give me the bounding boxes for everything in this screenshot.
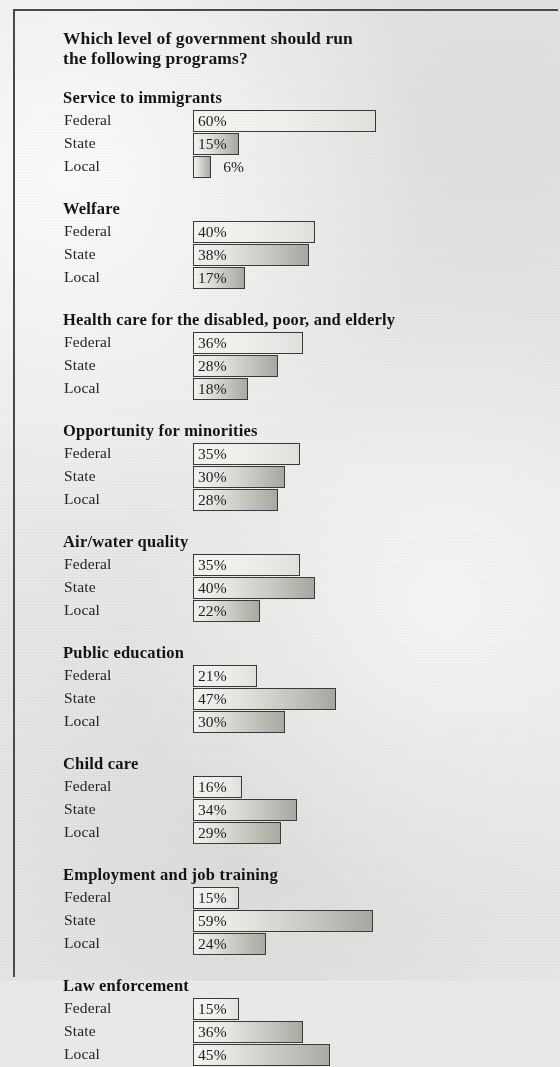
bar-value-label: 18% xyxy=(198,379,227,399)
row-label: Federal xyxy=(64,999,112,1017)
row-label: Federal xyxy=(64,111,112,129)
bar-value-label: 38% xyxy=(198,245,227,265)
row-label: State xyxy=(64,578,96,596)
bar-local: 6% xyxy=(193,156,211,178)
section-heading: Law enforcement xyxy=(63,976,189,996)
row-label: Local xyxy=(64,934,100,952)
bar-value-label: 24% xyxy=(198,934,227,954)
bar-value-label: 59% xyxy=(198,911,227,931)
bar-value-label: 40% xyxy=(198,578,227,598)
bar-federal: 15% xyxy=(193,887,239,909)
row-label: Federal xyxy=(64,333,112,351)
row-label: State xyxy=(64,134,96,152)
bar-value-label: 35% xyxy=(198,444,227,464)
bar-local: 45% xyxy=(193,1044,330,1066)
row-label: Federal xyxy=(64,222,112,240)
section-heading: Health care for the disabled, poor, and … xyxy=(63,310,395,330)
bar-local: 28% xyxy=(193,489,278,511)
bar-state: 15% xyxy=(193,133,239,155)
bar-value-label: 15% xyxy=(198,888,227,908)
row-label: Local xyxy=(64,712,100,730)
bar-federal: 35% xyxy=(193,554,300,576)
row-label: Local xyxy=(64,601,100,619)
row-label: State xyxy=(64,1022,96,1040)
section-heading: Air/water quality xyxy=(63,532,188,552)
bar-value-label: 36% xyxy=(198,1022,227,1042)
section-heading: Opportunity for minorities xyxy=(63,421,258,441)
section-heading: Public education xyxy=(63,643,184,663)
bar-state: 59% xyxy=(193,910,373,932)
bar-value-label: 30% xyxy=(198,467,227,487)
bar-value-label: 22% xyxy=(198,601,227,621)
bar-value-label: 6% xyxy=(223,157,244,177)
bar-local: 24% xyxy=(193,933,266,955)
page-title-line-2: the following programs? xyxy=(63,48,463,68)
row-label: State xyxy=(64,800,96,818)
row-label: Federal xyxy=(64,555,112,573)
page-title-line-1: Which level of government should run xyxy=(63,28,463,48)
bar-federal: 15% xyxy=(193,998,239,1020)
bar-value-label: 15% xyxy=(198,999,227,1019)
section-heading: Service to immigrants xyxy=(63,88,222,108)
page-title: Which level of government should run the… xyxy=(63,28,463,68)
bar-local: 18% xyxy=(193,378,248,400)
bar-value-label: 36% xyxy=(198,333,227,353)
bar-value-label: 35% xyxy=(198,555,227,575)
bar-value-label: 15% xyxy=(198,134,227,154)
bar-local: 17% xyxy=(193,267,245,289)
row-label: State xyxy=(64,467,96,485)
bar-local: 29% xyxy=(193,822,281,844)
row-label: Local xyxy=(64,157,100,175)
bar-federal: 16% xyxy=(193,776,242,798)
bar-value-label: 47% xyxy=(198,689,227,709)
bar-value-label: 28% xyxy=(198,356,227,376)
row-label: State xyxy=(64,245,96,263)
row-label: Local xyxy=(64,379,100,397)
row-label: State xyxy=(64,689,96,707)
row-label: Federal xyxy=(64,888,112,906)
bar-value-label: 30% xyxy=(198,712,227,732)
bar-value-label: 21% xyxy=(198,666,227,686)
bar-federal: 21% xyxy=(193,665,257,687)
bar-state: 47% xyxy=(193,688,336,710)
row-label: Local xyxy=(64,1045,100,1063)
bar-value-label: 34% xyxy=(198,800,227,820)
bar-value-label: 60% xyxy=(198,111,227,131)
section-heading: Employment and job training xyxy=(63,865,278,885)
row-label: State xyxy=(64,911,96,929)
bar-federal: 36% xyxy=(193,332,303,354)
bar-state: 34% xyxy=(193,799,297,821)
section-heading: Welfare xyxy=(63,199,120,219)
row-label: Federal xyxy=(64,444,112,462)
bar-state: 28% xyxy=(193,355,278,377)
row-label: Local xyxy=(64,823,100,841)
row-label: Federal xyxy=(64,666,112,684)
bar-federal: 40% xyxy=(193,221,315,243)
bar-state: 40% xyxy=(193,577,315,599)
bar-value-label: 28% xyxy=(198,490,227,510)
bar-local: 30% xyxy=(193,711,285,733)
bar-value-label: 45% xyxy=(198,1045,227,1065)
bar-state: 36% xyxy=(193,1021,303,1043)
bar-federal: 35% xyxy=(193,443,300,465)
row-label: Local xyxy=(64,268,100,286)
row-label: Federal xyxy=(64,777,112,795)
bar-value-label: 17% xyxy=(198,268,227,288)
bar-federal: 60% xyxy=(193,110,376,132)
bar-value-label: 40% xyxy=(198,222,227,242)
row-label: State xyxy=(64,356,96,374)
bar-value-label: 29% xyxy=(198,823,227,843)
bar-state: 30% xyxy=(193,466,285,488)
section-heading: Child care xyxy=(63,754,139,774)
bar-value-label: 16% xyxy=(198,777,227,797)
row-label: Local xyxy=(64,490,100,508)
bar-local: 22% xyxy=(193,600,260,622)
bar-state: 38% xyxy=(193,244,309,266)
